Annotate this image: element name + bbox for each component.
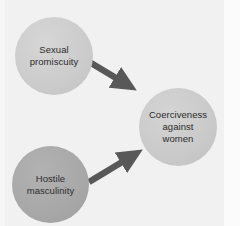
node-sexual-promiscuity: Sexual promiscuity — [15, 17, 93, 95]
node-coerciveness-against-women: Coerciveness against women — [139, 88, 217, 166]
figure-left-edge-band — [0, 0, 5, 226]
node-label-coerciveness-against-women: Coerciveness against women — [146, 109, 210, 145]
figure-right-edge-band — [224, 0, 240, 226]
node-label-sexual-promiscuity: Sexual promiscuity — [27, 44, 82, 68]
arrow-hostile-to-coerciveness — [89, 155, 135, 183]
diagram-canvas: Sexual promiscuity Hostile masculinity C… — [0, 0, 240, 226]
node-label-hostile-masculinity: Hostile masculinity — [24, 173, 78, 197]
node-hostile-masculinity: Hostile masculinity — [12, 146, 89, 223]
arrow-promiscuity-to-coerciveness — [86, 60, 129, 86]
